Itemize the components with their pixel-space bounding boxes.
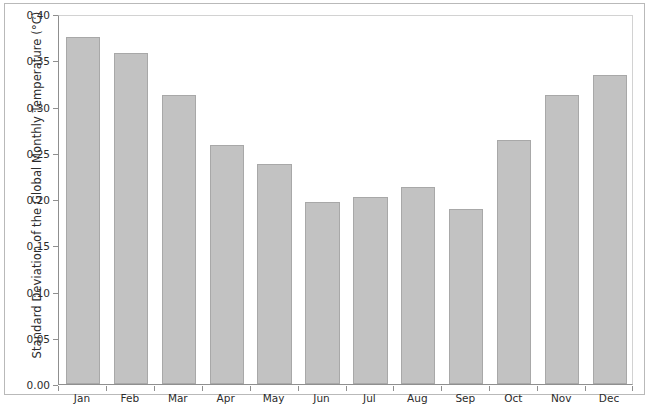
x-tick-mark xyxy=(298,386,299,391)
y-axis-ticks: 0.000.050.100.150.200.250.300.350.40 xyxy=(0,15,58,385)
x-tick-mark xyxy=(489,386,490,391)
x-tick-label: Sep xyxy=(455,392,475,404)
bar-sep xyxy=(449,209,483,384)
x-axis-ticks: JanFebMarAprMayJunJulAugSepOctNovDec xyxy=(58,386,633,405)
x-tick-mark xyxy=(585,386,586,391)
bar-mar xyxy=(162,95,196,384)
x-tick-label: Dec xyxy=(599,392,619,404)
x-tick-label: Mar xyxy=(168,392,188,404)
plot-area xyxy=(58,15,633,385)
x-tick-label: Jan xyxy=(74,392,90,404)
x-tick-mark xyxy=(154,386,155,391)
y-tick-label: 0.35 xyxy=(6,55,50,67)
x-tick-mark xyxy=(58,386,59,391)
x-tick-mark xyxy=(106,386,107,391)
x-tick-mark xyxy=(250,386,251,391)
x-tick-label: Jun xyxy=(313,392,329,404)
bar-nov xyxy=(545,95,579,384)
x-tick-label: Aug xyxy=(407,392,428,404)
y-tick-label: 0.30 xyxy=(6,102,50,114)
x-tick-mark xyxy=(441,386,442,391)
y-tick-label: 0.25 xyxy=(6,148,50,160)
x-tick-label: Oct xyxy=(504,392,522,404)
bar-jan xyxy=(66,37,100,384)
bar-apr xyxy=(210,145,244,384)
x-tick-mark xyxy=(346,386,347,391)
bar-jul xyxy=(353,197,387,384)
x-tick-mark xyxy=(393,386,394,391)
x-tick-label: Nov xyxy=(551,392,572,404)
y-tick-label: 0.40 xyxy=(6,9,50,21)
y-tick-label: 0.05 xyxy=(6,333,50,345)
y-tick-label: 0.20 xyxy=(6,194,50,206)
x-tick-label: May xyxy=(263,392,285,404)
x-tick-mark xyxy=(537,386,538,391)
y-tick-label: 0.00 xyxy=(6,379,50,391)
chart-title xyxy=(0,0,649,2)
bar-feb xyxy=(114,53,148,384)
x-tick-label: Apr xyxy=(217,392,235,404)
bar-jun xyxy=(305,202,339,384)
bar-dec xyxy=(593,75,627,384)
chart-figure: Standard Deviation of the Global Monthly… xyxy=(0,0,649,405)
x-tick-mark xyxy=(202,386,203,391)
bar-may xyxy=(257,164,291,384)
y-tick-label: 0.15 xyxy=(6,240,50,252)
bar-oct xyxy=(497,140,531,384)
x-tick-label: Feb xyxy=(121,392,140,404)
x-tick-mark xyxy=(632,386,633,391)
bar-aug xyxy=(401,187,435,384)
x-tick-label: Jul xyxy=(363,392,376,404)
y-tick-label: 0.10 xyxy=(6,287,50,299)
